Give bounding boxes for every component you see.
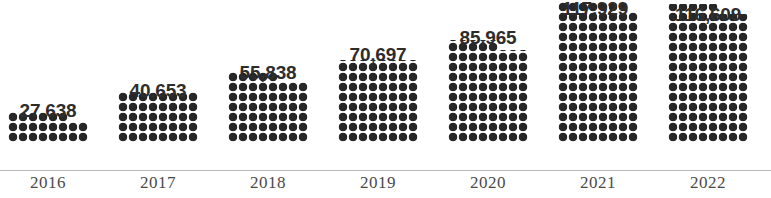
x-axis-label-2020: 2020 — [448, 173, 528, 193]
x-axis-label-2019: 2019 — [338, 173, 418, 193]
dot-bar-chart: 27,638201640.653201755,838201870,6972019… — [0, 0, 771, 198]
value-label-2022: 116,609 — [662, 4, 754, 26]
bar-2019 — [338, 60, 418, 142]
value-label-2017: 40.653 — [112, 80, 204, 102]
bar-2020 — [448, 40, 528, 142]
bar-group — [448, 40, 528, 142]
x-axis-label-2018: 2018 — [228, 173, 308, 193]
value-label-2021: 117,929 — [549, 0, 641, 20]
value-label-2019: 70,697 — [332, 44, 424, 66]
value-label-2020: 85,965 — [442, 27, 534, 49]
x-axis-label-2021: 2021 — [558, 173, 638, 193]
x-axis-label-2022: 2022 — [668, 173, 748, 193]
bar-2021 — [558, 2, 638, 142]
x-axis-label-2016: 2016 — [8, 173, 88, 193]
bar-group — [338, 60, 418, 142]
x-axis-label-2017: 2017 — [118, 173, 198, 193]
value-label-2016: 27,638 — [2, 100, 94, 122]
value-label-2018: 55,838 — [222, 62, 314, 84]
bar-group — [558, 2, 638, 142]
x-axis-baseline — [0, 170, 771, 171]
